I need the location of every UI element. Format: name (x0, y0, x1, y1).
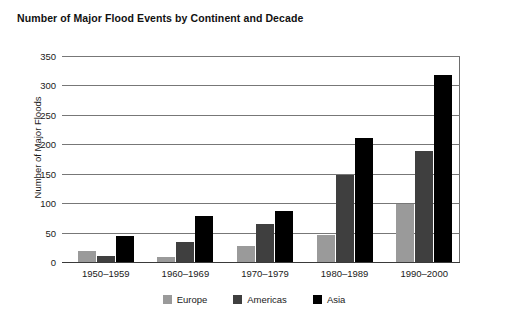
bar-group (317, 56, 373, 262)
y-axis-tick-label: 300 (16, 80, 56, 91)
flood-events-bar-chart: Number of Major Flood Events by Continen… (0, 0, 508, 327)
legend-label: Americas (247, 294, 287, 305)
legend-item-asia: Asia (313, 294, 345, 305)
x-axis-tick-label: 1990–2000 (400, 268, 448, 279)
legend-label: Europe (177, 294, 208, 305)
legend-item-europe: Europe (163, 294, 208, 305)
y-axis-tick-label: 50 (16, 227, 56, 238)
bar-americas (176, 242, 194, 262)
y-axis-tick-label: 250 (16, 109, 56, 120)
bar-europe (157, 257, 175, 262)
bar-americas (256, 224, 274, 262)
legend-swatch-icon (313, 295, 322, 304)
legend-swatch-icon (163, 295, 172, 304)
bar-group (78, 56, 134, 262)
bars-layer (62, 56, 460, 262)
bar-europe (317, 235, 335, 262)
x-axis-tick-label: 1970–1979 (241, 268, 289, 279)
chart-legend: EuropeAmericasAsia (0, 294, 508, 305)
y-axis-tick-label: 0 (16, 257, 56, 268)
bar-asia (434, 75, 452, 262)
bar-asia (195, 216, 213, 262)
bar-asia (355, 138, 373, 262)
chart-title: Number of Major Flood Events by Continen… (17, 12, 303, 24)
legend-label: Asia (327, 294, 345, 305)
bar-asia (116, 236, 134, 262)
bar-americas (415, 151, 433, 262)
bar-group (157, 56, 213, 262)
bar-group (396, 56, 452, 262)
bar-europe (396, 204, 414, 262)
y-axis-tick-label: 200 (16, 139, 56, 150)
bar-group (237, 56, 293, 262)
bar-americas (336, 175, 354, 262)
x-axis-tick-label: 1980–1989 (321, 268, 369, 279)
bar-americas (97, 256, 115, 262)
x-axis-tick-label: 1950–1959 (82, 268, 130, 279)
y-axis-tick-label: 350 (16, 51, 56, 62)
bar-europe (78, 251, 96, 262)
bar-asia (275, 211, 293, 262)
y-axis-tick-label: 150 (16, 168, 56, 179)
legend-swatch-icon (233, 295, 242, 304)
bar-europe (237, 246, 255, 262)
x-axis-tick-label: 1960–1969 (162, 268, 210, 279)
y-axis-tick-labels: 050100150200250300350 (12, 56, 56, 262)
legend-item-americas: Americas (233, 294, 287, 305)
y-axis-tick-label: 100 (16, 198, 56, 209)
x-axis-baseline (62, 262, 460, 263)
